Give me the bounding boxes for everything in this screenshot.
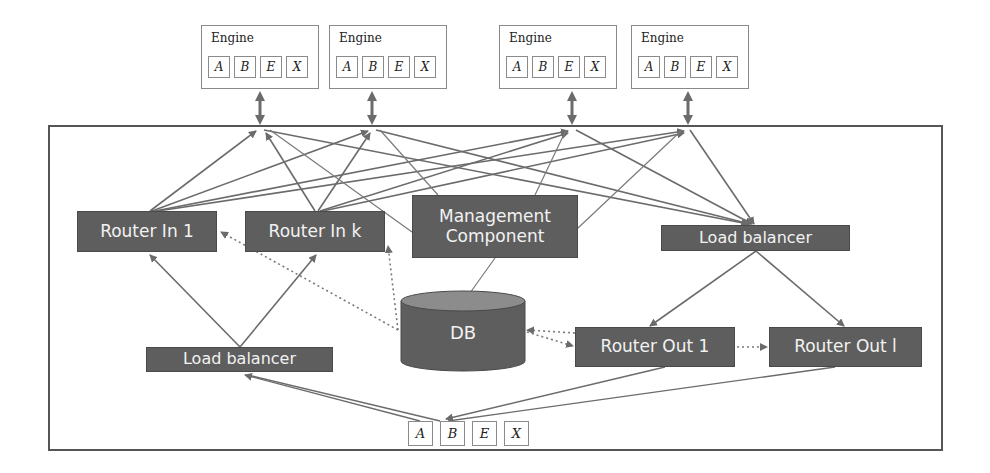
slot-b: B [440,421,465,446]
slot-e: E [558,56,580,78]
slot-b: B [664,56,686,78]
engine-2: Engine A B E X [329,25,447,89]
engine-1: Engine A B E X [201,25,319,89]
router-out-1: Router Out 1 [575,327,735,367]
engine-4: Engine A B E X [631,25,749,89]
db-label: DB [450,322,476,343]
slot-b: B [234,56,256,78]
slot-a: A [336,56,358,78]
engine-title: Engine [211,31,254,45]
engine-title: Engine [641,31,684,45]
message-slots: A B E X [408,421,529,446]
management-component-label-line1: Management [439,207,551,227]
router-out-l-label: Router Out l [794,337,897,357]
slot-a: A [408,421,433,446]
slot-a: A [506,56,528,78]
slot-e: E [690,56,712,78]
management-component-label-line2: Component [446,227,545,247]
slot-x: X [584,56,606,78]
slot-x: X [286,56,308,78]
slot-x: X [414,56,436,78]
engine-title: Engine [339,31,382,45]
load-balancer-bottom-label: Load balancer [183,350,296,368]
router-in-k-label: Router In k [269,222,362,242]
slot-x: X [716,56,738,78]
router-out-1-label: Router Out 1 [601,337,710,357]
engine-link-arrows [260,96,688,120]
router-in-1: Router In 1 [77,211,217,252]
router-in-1-label: Router In 1 [100,222,194,242]
engine-3: Engine A B E X [499,25,617,89]
slot-x: X [504,421,529,446]
load-balancer-bottom: Load balancer [146,347,333,372]
slot-e: E [388,56,410,78]
router-out-l: Router Out l [769,327,922,367]
slot-b: B [362,56,384,78]
management-component: Management Component [412,195,578,258]
slot-e: E [472,421,497,446]
slot-a: A [208,56,230,78]
load-balancer-top-label: Load balancer [699,229,812,247]
db-node: DB [401,312,525,352]
slot-e: E [260,56,282,78]
engine-title: Engine [509,31,552,45]
load-balancer-top: Load balancer [661,225,850,251]
system-boundary [48,125,943,451]
router-in-k: Router In k [245,211,385,252]
slot-a: A [638,56,660,78]
slot-b: B [532,56,554,78]
